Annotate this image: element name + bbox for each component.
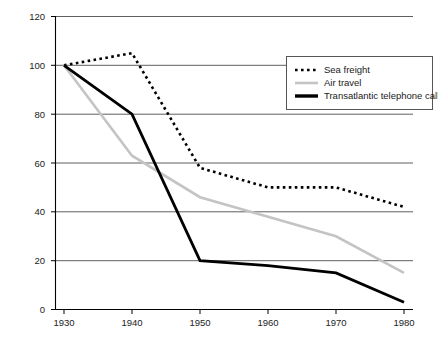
x-axis-tick-label: 1950 [189, 317, 210, 328]
x-axis-tick-label: 1970 [325, 317, 346, 328]
y-axis-tick-label: 120 [29, 11, 45, 22]
legend-label: Sea freight [324, 64, 370, 75]
x-axis-tick-label: 1980 [393, 317, 414, 328]
chart-legend: Sea freight Air travel Transatlantic tel… [287, 57, 438, 110]
legend-label: Transatlantic telephone call [324, 90, 438, 101]
y-axis-tick-label: 0 [40, 304, 45, 315]
y-axis-tick-label: 60 [34, 158, 45, 169]
chart-background [0, 0, 438, 355]
x-axis-tick-label: 1960 [257, 317, 278, 328]
y-axis-tick-label: 20 [34, 255, 45, 266]
x-axis-tick-label: 1930 [53, 317, 74, 328]
y-axis-tick-label: 80 [34, 109, 45, 120]
x-axis-tick-label: 1940 [121, 317, 142, 328]
y-axis-tick-label: 100 [29, 60, 45, 71]
line-chart: 120 100 80 60 40 20 0 1930 1940 1950 196… [0, 0, 438, 355]
y-axis-tick-label: 40 [34, 206, 45, 217]
chart-canvas: 120 100 80 60 40 20 0 1930 1940 1950 196… [0, 0, 438, 355]
legend-label: Air travel [324, 77, 361, 88]
